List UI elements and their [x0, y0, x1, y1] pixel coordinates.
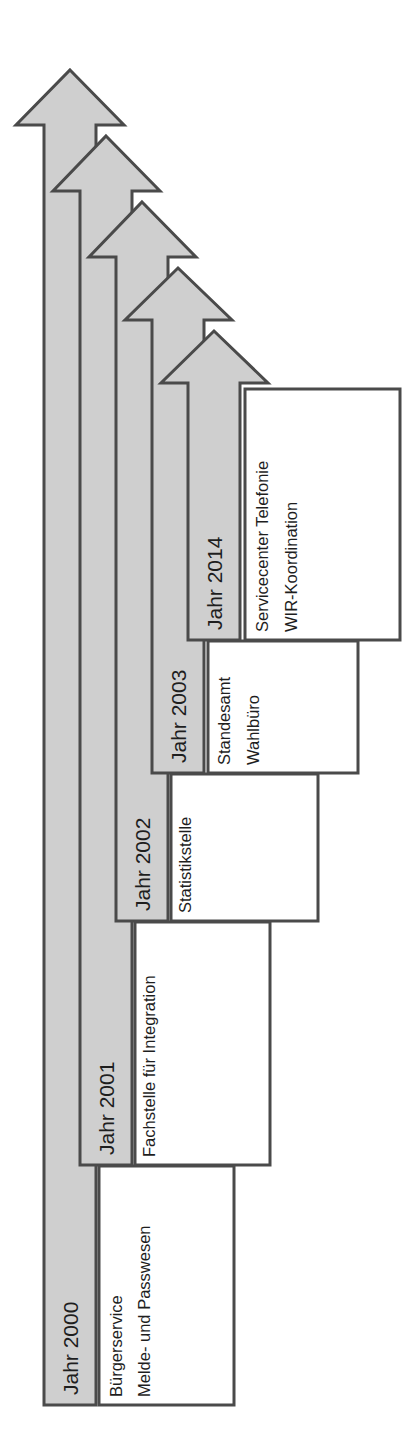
unit-label-statistikstelle: Statistikstelle [176, 817, 194, 913]
unit-label-standesamt: Standesamt [215, 677, 233, 765]
year-label-2002: Jahr 2002 [131, 818, 154, 911]
unit-label-wir-koordination: WIR-Koordination [282, 502, 300, 632]
unit-label-melde-passwesen: Melde- und Passwesen [135, 1225, 153, 1397]
unit-label-wahlbuero: Wahlbüro [244, 695, 262, 765]
year-label-2000: Jahr 2000 [59, 1302, 82, 1395]
growth-timeline-diagram: Jahr 2000 Jahr 2001 Jahr 2002 Jahr 2003 … [0, 0, 402, 1447]
year-label-2001: Jahr 2001 [95, 1062, 118, 1155]
unit-label-servicecenter-telefonie: Servicecenter Telefonie [253, 461, 271, 632]
unit-label-fachstelle-integration: Fachstelle für Integration [140, 975, 158, 1157]
year-label-2014: Jahr 2014 [203, 536, 226, 630]
unit-label-buergerservice: Bürgerservice [107, 1295, 125, 1397]
year-label-2003: Jahr 2003 [167, 670, 190, 763]
